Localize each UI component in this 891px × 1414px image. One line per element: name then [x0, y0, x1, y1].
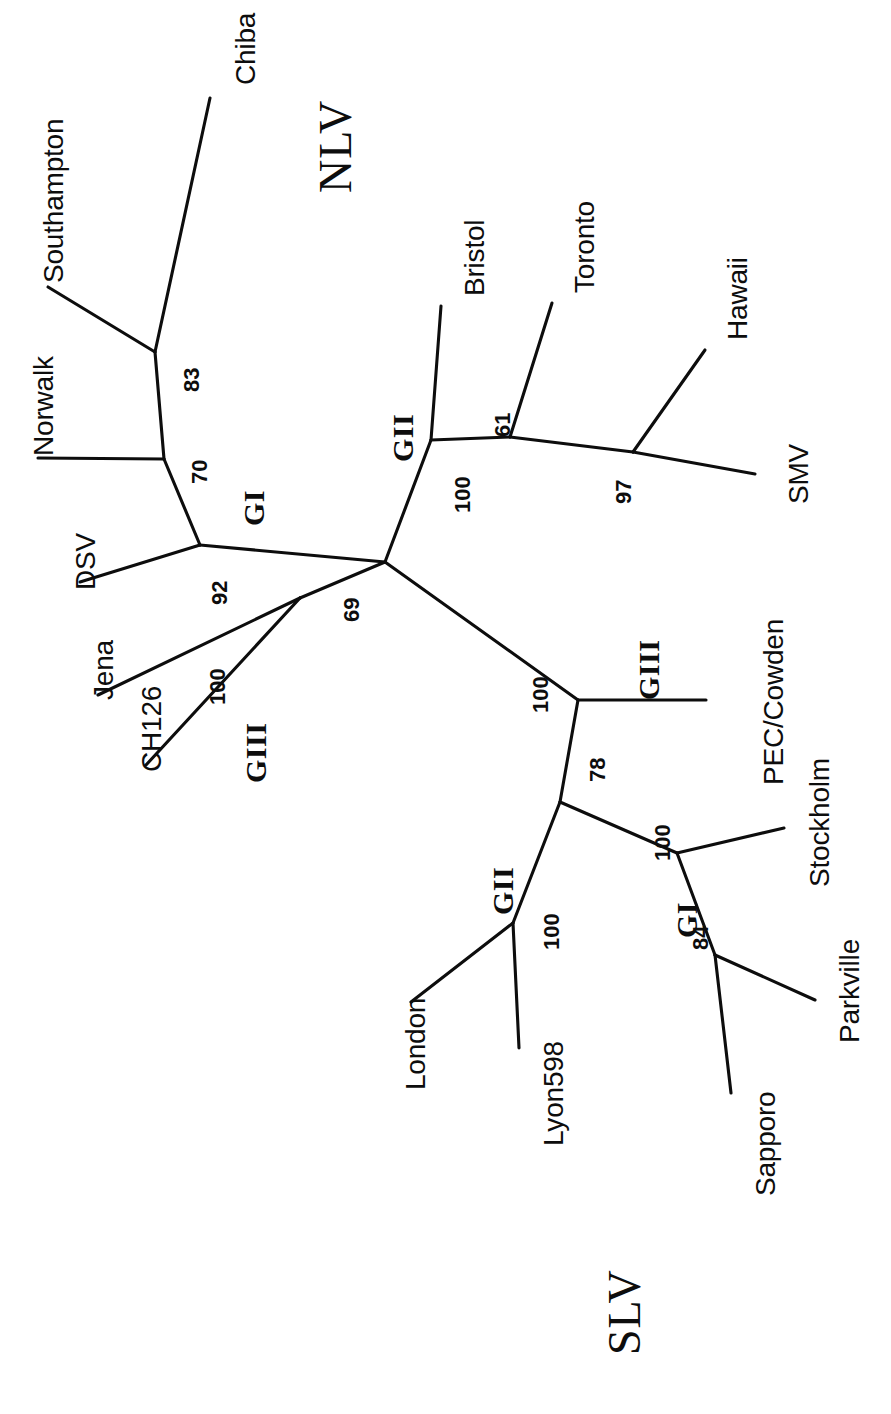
taxon-label-bristol: Bristol [461, 220, 489, 296]
branch-parkville [715, 955, 815, 1000]
taxon-label-parkville: Parkville [836, 939, 864, 1043]
bootstrap-value-100-slv: 100 [530, 676, 552, 713]
genus-label-nlv: NLV [313, 100, 359, 193]
bootstrap-value-83: 83 [181, 368, 203, 392]
bootstrap-value-78: 78 [587, 758, 609, 782]
bootstrap-value-100-gii-slv: 100 [541, 913, 563, 950]
group-label-gi-nlv: GI [239, 490, 269, 526]
branch-bristol [431, 306, 441, 440]
branch-lyon598 [513, 923, 519, 1048]
genus-label-slv: SLV [602, 1269, 648, 1355]
branch-sapporo [715, 955, 731, 1093]
taxon-label-ch126: CH126 [138, 686, 166, 772]
bootstrap-value-100-gi-slv: 100 [652, 824, 674, 861]
taxon-label-norwalk: Norwalk [30, 356, 58, 456]
bootstrap-value-100-gii-nlv: 100 [452, 476, 474, 513]
branch-hawaii [633, 350, 705, 452]
branch-toronto [510, 303, 552, 437]
taxon-label-smv: SMV [785, 444, 813, 504]
taxon-label-southampton: Southampton [40, 119, 68, 283]
taxon-label-dsv: DSV [72, 533, 100, 590]
branch-node61-node97 [510, 437, 633, 452]
branch-jena [98, 598, 300, 695]
group-label-giii-nlv: GIII [241, 723, 271, 783]
group-label-gi-slv: GI [672, 902, 702, 938]
branch-slv100-node78 [560, 700, 578, 802]
branch-chiba [155, 98, 210, 352]
taxon-label-sapporo: Sapporo [752, 1092, 780, 1196]
bootstrap-value-70: 70 [189, 460, 211, 484]
bootstrap-value-92: 92 [209, 581, 231, 605]
group-label-gii-nlv: GII [388, 414, 418, 462]
group-label-gii-slv: GII [488, 867, 518, 915]
bootstrap-value-69: 69 [341, 598, 363, 622]
bootstrap-value-100-giii-nlv: 100 [207, 668, 229, 705]
taxon-label-chiba: Chiba [232, 13, 260, 85]
bootstrap-value-97: 97 [613, 480, 635, 504]
taxon-label-lyon598: Lyon598 [540, 1041, 568, 1146]
taxon-label-jena: Jena [90, 640, 118, 700]
group-label-giii-slv: GIII [634, 640, 664, 700]
taxon-label-toronto: Toronto [571, 201, 599, 293]
branch-london [411, 923, 513, 1002]
phylogenetic-tree-figure: Chiba Southampton Norwalk DSV Jena CH126… [0, 0, 891, 1414]
bootstrap-value-61: 61 [492, 413, 514, 437]
taxon-label-stockholm: Stockholm [806, 758, 834, 887]
branch-node78-gii-slv [513, 802, 560, 923]
branch-giii-nlv-to-center [300, 562, 385, 598]
taxon-label-pec-cowden: PEC/Cowden [760, 619, 788, 785]
branch-stockholm [677, 828, 784, 853]
taxon-label-london: London [402, 998, 430, 1090]
branch-norwalk [38, 458, 164, 459]
branch-gii-nlv-to-node61 [431, 437, 510, 440]
taxon-label-hawaii: Hawaii [724, 257, 752, 340]
branch-southampton [48, 287, 155, 352]
branch-gi-nlv-to-center [200, 545, 385, 562]
branch-smv [633, 452, 755, 474]
branch-node83-node70 [155, 352, 164, 459]
